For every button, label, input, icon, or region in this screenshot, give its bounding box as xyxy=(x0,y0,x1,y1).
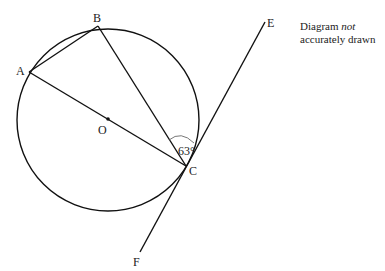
geometry-diagram: A B C O E F 63° Diagram not accurately d… xyxy=(0,0,385,271)
chord-bc xyxy=(98,26,186,166)
label-b: B xyxy=(93,11,101,25)
label-a: A xyxy=(16,64,25,78)
chord-ab xyxy=(29,26,98,72)
diagram-note: Diagram not accurately drawn xyxy=(300,20,375,46)
center-point-o xyxy=(106,117,110,121)
label-c: C xyxy=(189,164,197,178)
angle-label: 63° xyxy=(178,144,195,158)
note-line-1: Diagram not xyxy=(300,20,375,33)
note-line-2: accurately drawn xyxy=(300,33,375,46)
label-o: O xyxy=(98,123,107,137)
angle-arc xyxy=(169,136,194,143)
label-f: F xyxy=(133,255,140,269)
tangent-ef xyxy=(140,22,265,252)
note-prefix: Diagram xyxy=(300,20,341,32)
note-emphasis: not xyxy=(341,20,355,32)
label-e: E xyxy=(267,16,274,30)
